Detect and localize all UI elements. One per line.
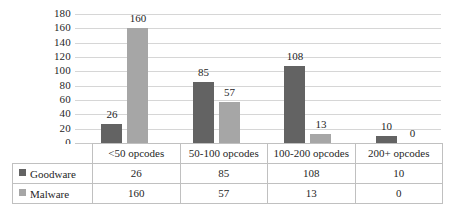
table-cell: 0	[355, 184, 443, 204]
y-axis-tick-label: 160	[38, 22, 71, 33]
data-table-body: <50 opcodes50-100 opcodes100-200 opcodes…	[13, 144, 443, 204]
bar-value-label: 57	[210, 87, 250, 98]
table-cell: 13	[268, 184, 356, 204]
table-cell: 85	[180, 164, 268, 184]
bar-value-label: 26	[92, 109, 132, 120]
y-axis-tick-label: 120	[38, 51, 71, 62]
table-row: Malware16057130	[13, 184, 443, 204]
bar	[284, 66, 305, 143]
table-cell: 26	[93, 164, 181, 184]
legend-swatch-icon	[19, 169, 26, 176]
bar-value-label: 160	[118, 13, 158, 24]
bar	[127, 28, 148, 143]
bar-chart-with-data-table: 180 160 140 120 100 80 60 40 20 0 261608…	[0, 0, 458, 207]
bar	[219, 102, 240, 143]
y-axis: 180 160 140 120 100 80 60 40 20 0	[38, 0, 71, 146]
table-corner-cell	[13, 144, 93, 164]
bar-value-label: 108	[275, 51, 315, 62]
bar-group: 100	[350, 0, 442, 146]
bar	[101, 124, 122, 143]
bar-value-label: 13	[301, 119, 341, 130]
y-axis-tick-label: 140	[38, 37, 71, 48]
y-axis-tick-label: 100	[38, 65, 71, 76]
table-cell: 108	[268, 164, 356, 184]
table-header-row: <50 opcodes50-100 opcodes100-200 opcodes…	[13, 144, 443, 164]
legend-swatch-icon	[19, 189, 26, 196]
bar-value-label: 85	[184, 67, 224, 78]
table-column-header: 200+ opcodes	[355, 144, 443, 164]
table-cell: 57	[180, 184, 268, 204]
legend-row-label: Malware	[13, 184, 93, 204]
y-axis-tick-label: 40	[38, 108, 71, 119]
data-table: <50 opcodes50-100 opcodes100-200 opcodes…	[12, 143, 443, 204]
legend-series-name: Malware	[30, 187, 69, 199]
bar-group: 8557	[167, 0, 259, 146]
table-cell: 10	[355, 164, 443, 184]
y-axis-tick-label: 80	[38, 80, 71, 91]
legend-series-name: Goodware	[30, 167, 76, 179]
table-column-header: 100-200 opcodes	[268, 144, 356, 164]
bar	[310, 134, 331, 143]
legend-row-label: Goodware	[13, 164, 93, 184]
bars-layer: 26160855710813100	[75, 0, 441, 146]
y-axis-tick-label: 60	[38, 94, 71, 105]
bar-value-label: 0	[393, 128, 433, 139]
table-column-header: 50-100 opcodes	[180, 144, 268, 164]
table-row: Goodware268510810	[13, 164, 443, 184]
plot-region: 180 160 140 120 100 80 60 40 20 0 261608…	[0, 0, 458, 146]
bar-group: 26160	[75, 0, 167, 146]
table-column-header: <50 opcodes	[93, 144, 181, 164]
y-axis-tick-label: 180	[38, 8, 71, 19]
table-cell: 160	[93, 184, 181, 204]
bar-group: 10813	[258, 0, 350, 146]
y-axis-tick-label: 20	[38, 123, 71, 134]
